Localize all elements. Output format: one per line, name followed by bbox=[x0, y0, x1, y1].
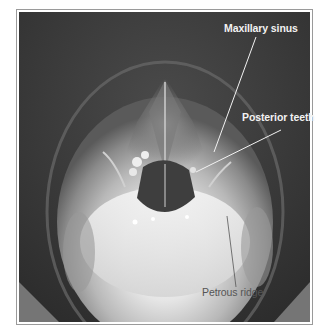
label-petrous-ridge: Petrous ridge bbox=[202, 286, 263, 298]
xray-image bbox=[19, 12, 310, 322]
label-maxillary-sinus: Maxillary sinus bbox=[224, 22, 298, 34]
skull-radiograph bbox=[19, 12, 310, 322]
label-posterior-teeth: Posterior teeth bbox=[242, 111, 315, 123]
